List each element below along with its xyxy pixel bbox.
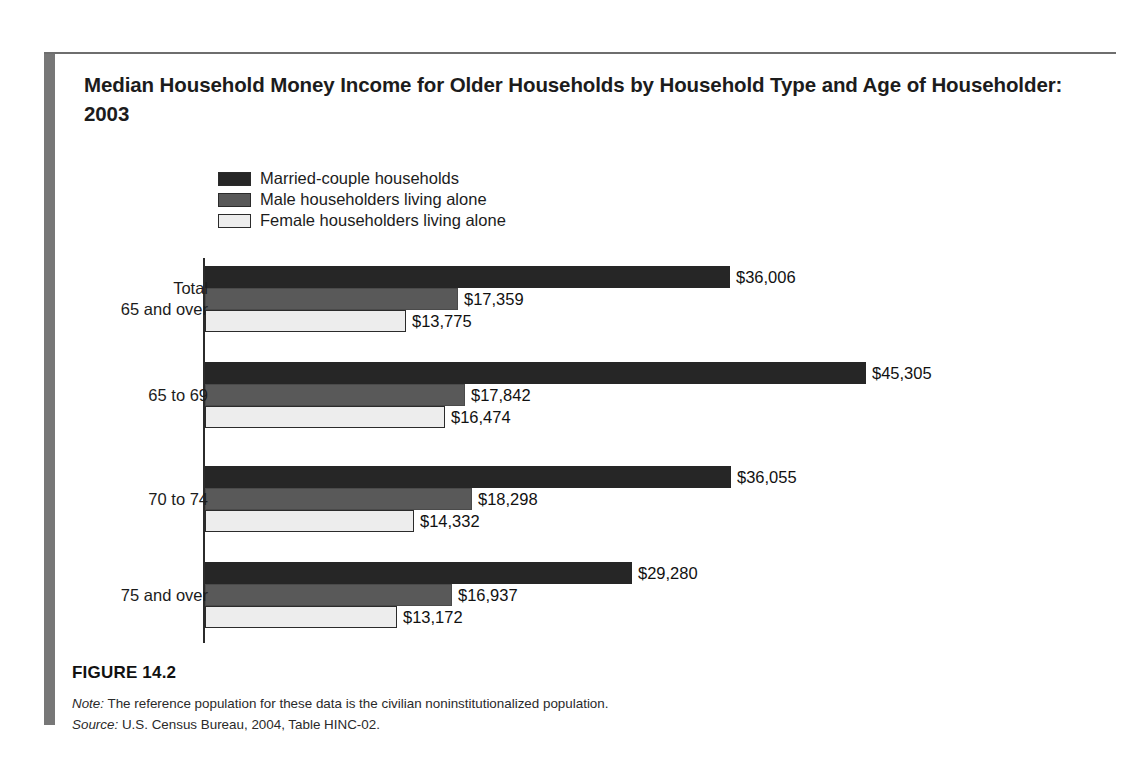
bar-4-series-2 — [205, 584, 452, 606]
bar-value-label: $17,359 — [464, 288, 524, 310]
bar-4-series-3 — [205, 606, 397, 628]
value-axis-line — [203, 258, 205, 643]
bar-value-label: $13,172 — [403, 606, 463, 628]
legend-label-female-alone: Female householders living alone — [260, 211, 506, 230]
category-label-2: 65 to 69 — [48, 385, 208, 406]
legend-item-married-couple: Married-couple households — [218, 168, 506, 189]
source-label: Source: — [72, 717, 118, 732]
chart-legend: Married-couple households Male household… — [218, 168, 506, 231]
legend-swatch-icon-married-couple — [218, 172, 251, 186]
bar-2-series-1 — [205, 362, 866, 384]
figure-page: Median Household Money Income for Older … — [0, 0, 1138, 763]
category-label-3: 70 to 74 — [48, 489, 208, 510]
figure-source: Source: U.S. Census Bureau, 2004, Table … — [72, 716, 380, 733]
bar-value-label: $36,006 — [736, 266, 796, 288]
bar-value-label: $16,937 — [458, 584, 518, 606]
category-label-4: 75 and over — [48, 585, 208, 606]
left-accent-bar — [44, 54, 55, 725]
bar-value-label: $13,775 — [412, 310, 472, 332]
bar-value-label: $36,055 — [737, 466, 797, 488]
legend-label-male-alone: Male householders living alone — [260, 190, 487, 209]
bar-1-series-2 — [205, 288, 458, 310]
note-text: The reference population for these data … — [104, 696, 608, 711]
bar-value-label: $45,305 — [872, 362, 932, 384]
bar-2-series-2 — [205, 384, 465, 406]
figure-note: Note: The reference population for these… — [72, 695, 608, 712]
bar-value-label: $14,332 — [420, 510, 480, 532]
bar-3-series-1 — [205, 466, 731, 488]
legend-swatch-icon-male-alone — [218, 193, 251, 207]
bar-value-label: $29,280 — [638, 562, 698, 584]
bar-3-series-3 — [205, 510, 414, 532]
bar-3-series-2 — [205, 488, 472, 510]
legend-item-female-alone: Female householders living alone — [218, 210, 506, 231]
legend-swatch-icon-female-alone — [218, 214, 251, 228]
source-text: U.S. Census Bureau, 2004, Table HINC-02. — [118, 717, 380, 732]
legend-label-married-couple: Married-couple households — [260, 169, 459, 188]
top-divider-rule — [44, 52, 1116, 54]
bar-1-series-3 — [205, 310, 406, 332]
note-label: Note: — [72, 696, 104, 711]
bar-value-label: $16,474 — [451, 406, 511, 428]
bar-value-label: $18,298 — [478, 488, 538, 510]
page-title: Median Household Money Income for Older … — [84, 70, 1094, 128]
category-label-1: Total 65 and over — [48, 278, 208, 320]
bar-4-series-1 — [205, 562, 632, 584]
bar-2-series-3 — [205, 406, 445, 428]
bar-1-series-1 — [205, 266, 730, 288]
legend-item-male-alone: Male householders living alone — [218, 189, 506, 210]
figure-number-caption: FIGURE 14.2 — [72, 663, 176, 683]
bar-value-label: $17,842 — [471, 384, 531, 406]
